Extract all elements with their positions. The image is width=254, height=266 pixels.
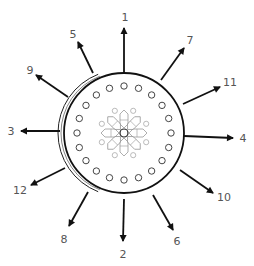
- arrow-label: 9: [27, 64, 34, 77]
- arrow-label: 3: [8, 125, 15, 138]
- ring-dot: [76, 144, 82, 150]
- ring-dot: [106, 174, 112, 180]
- ring-dot: [121, 177, 127, 183]
- arrow-10: 10: [180, 170, 231, 204]
- arrow-label: 8: [61, 233, 68, 246]
- arrowhead-icon: [121, 27, 128, 34]
- ring-dot: [159, 102, 165, 108]
- arrow-label: 10: [217, 191, 231, 204]
- arrow-label: 4: [240, 132, 247, 145]
- ring-dot: [121, 83, 127, 89]
- arrow-label: 12: [13, 184, 27, 197]
- arrow-3: 3: [8, 125, 61, 138]
- ring-dot: [168, 130, 174, 136]
- ring-dot: [83, 157, 89, 163]
- arrow-6: 6: [153, 195, 181, 248]
- arrowhead-icon: [227, 134, 234, 141]
- ring-dot: [83, 102, 89, 108]
- ring-dot: [93, 92, 99, 98]
- arrowhead-icon: [206, 187, 214, 194]
- ring-dot: [148, 168, 154, 174]
- radial-diagram: 171141062812395: [0, 0, 254, 266]
- arrow-label: 7: [187, 34, 194, 47]
- arrow-label: 5: [70, 28, 77, 41]
- arrow-11: 11: [183, 76, 237, 104]
- arrow-label: 6: [174, 235, 181, 248]
- ring-dot: [93, 168, 99, 174]
- arrow-4: 4: [184, 132, 247, 145]
- ring-dot: [135, 85, 141, 91]
- arrow-9: 9: [27, 64, 69, 97]
- ring-dot: [159, 157, 165, 163]
- arrowhead-icon: [20, 128, 27, 135]
- ring-dot: [106, 85, 112, 91]
- flower-center: [120, 129, 128, 137]
- ring-dot: [148, 92, 154, 98]
- arrow-2: 2: [120, 199, 127, 261]
- arrowhead-icon: [120, 235, 127, 242]
- ring-dot: [135, 174, 141, 180]
- arrow-12: 12: [13, 168, 65, 197]
- arrow-label: 2: [120, 248, 127, 261]
- arrowhead-icon: [35, 74, 43, 81]
- arrow-8: 8: [61, 192, 89, 246]
- arrow-7: 7: [161, 34, 194, 80]
- arrowhead-icon: [178, 47, 185, 55]
- ring-dot: [74, 130, 80, 136]
- ring-dot: [165, 115, 171, 121]
- arrow-label: 11: [223, 76, 237, 89]
- ring-dot: [76, 115, 82, 121]
- arrow-5: 5: [70, 28, 94, 73]
- arrow-label: 1: [122, 11, 129, 24]
- ring-dot: [165, 144, 171, 150]
- arrow-1: 1: [121, 11, 129, 73]
